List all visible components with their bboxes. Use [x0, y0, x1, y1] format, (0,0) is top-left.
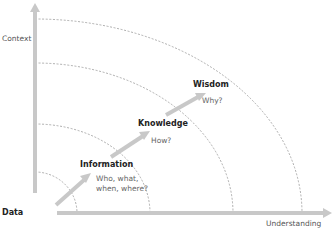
stage-information-question: Who, what, when, where? [96, 174, 148, 194]
arrow-information-to-knowledge [111, 131, 150, 157]
x-axis-arrowhead-icon [323, 208, 332, 218]
arc-wisdom [35, 19, 302, 213]
stage-information-question-line2: when, where? [96, 184, 148, 194]
stage-knowledge-question: How? [151, 136, 171, 146]
stage-knowledge-title: Knowledge [138, 120, 188, 128]
dikw-diagram: Context Understanding Data Information W… [0, 0, 336, 229]
stage-information-title: Information [80, 161, 133, 169]
x-axis [57, 208, 332, 218]
arrow-knowledge-to-wisdom [166, 93, 206, 115]
stage-data-title: Data [2, 209, 23, 217]
diagram-canvas [0, 0, 336, 229]
stage-wisdom-question: Why? [202, 96, 223, 106]
x-axis-label: Understanding [266, 220, 321, 228]
y-axis [30, 3, 40, 193]
arrow-data-to-information [56, 173, 91, 205]
stage-information-question-line1: Who, what, [96, 174, 148, 184]
y-axis-arrowhead-icon [30, 3, 40, 12]
y-axis-label: Context [2, 35, 31, 43]
stage-wisdom-title: Wisdom [193, 81, 229, 89]
